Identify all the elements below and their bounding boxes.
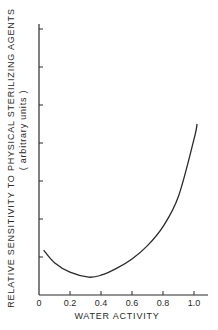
data-curve xyxy=(44,124,197,277)
x-tick-label: 0.2 xyxy=(64,298,77,308)
chart: 00.20.40.60.81.0 WATER ACTIVITY RELATIVE… xyxy=(0,0,218,330)
y-axis-subtitle: ( arbitrary units ) xyxy=(18,90,28,171)
x-tick-label: 0.8 xyxy=(157,298,170,308)
axes xyxy=(39,24,208,295)
x-tick-label: 0 xyxy=(36,298,41,308)
x-axis-title: WATER ACTIVITY xyxy=(74,311,159,321)
x-tick-labels: 00.20.40.60.81.0 xyxy=(36,298,200,308)
x-tick-label: 0.6 xyxy=(126,298,139,308)
x-tick-label: 0.4 xyxy=(95,298,108,308)
x-tick-label: 1.0 xyxy=(188,298,201,308)
y-axis-title: RELATIVE SENSITIVITY TO PHYSICAL STERILI… xyxy=(6,8,16,307)
